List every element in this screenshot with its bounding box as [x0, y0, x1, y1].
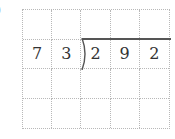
grid-cell: [81, 69, 110, 99]
grid-cell: [23, 10, 52, 40]
divisor-digit-tens: 7: [23, 40, 52, 70]
grid-cell: [52, 99, 81, 129]
long-division-grid: 7 3 2 9 2: [22, 9, 170, 129]
grid-cell: [23, 99, 52, 129]
dividend-digit-ones: 2: [140, 40, 169, 70]
grid-cell: [23, 69, 52, 99]
division-vinculum: [82, 38, 171, 40]
grid-cell: [111, 99, 140, 129]
grid-cell: [140, 69, 169, 99]
grid-cell: [140, 10, 169, 40]
division-bracket-icon: [76, 38, 88, 70]
grid-cell: [111, 10, 140, 40]
grid-cell: [52, 10, 81, 40]
grid-cell: [111, 69, 140, 99]
grid-cell: [52, 69, 81, 99]
grid-cell: [81, 99, 110, 129]
grid-cell: [140, 99, 169, 129]
dividend-digit-tens: 9: [111, 40, 140, 70]
problem-number-fragment: ): [0, 3, 1, 16]
grid-cell: [81, 10, 110, 40]
